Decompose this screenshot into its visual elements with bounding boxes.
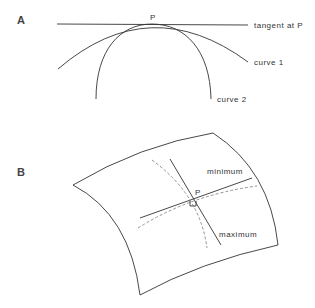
panel-a-label: A: [17, 14, 25, 26]
surface-outline: [73, 133, 278, 295]
point-p-label-b: P: [195, 188, 201, 197]
minimum-label: minimum: [207, 167, 243, 176]
panel-a-drawing: [57, 24, 248, 99]
curve-1-label: curve 1: [254, 58, 284, 67]
curve-2-label: curve 2: [217, 95, 247, 104]
diagram-canvas: [0, 0, 315, 308]
maximum-label: maximum: [219, 230, 257, 239]
curve-1: [58, 28, 248, 69]
panel-b-drawing: [73, 133, 278, 295]
point-p-label-a: P: [150, 13, 156, 22]
principal-direction-min: [140, 178, 252, 218]
panel-b-label: B: [17, 166, 25, 178]
tangent-label: tangent at P: [254, 21, 303, 30]
